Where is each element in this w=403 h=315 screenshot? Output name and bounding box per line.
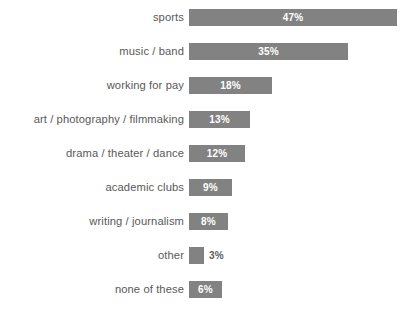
bar-track: 3% [189, 247, 224, 264]
bar-track: 18% [189, 77, 272, 94]
bar-category-label: none of these [0, 280, 184, 298]
bar-fill: 47% [189, 9, 397, 26]
bar-category-label: other [0, 246, 184, 264]
bar-row: other3% [0, 246, 403, 264]
bar-category-label: art / photography / filmmaking [0, 110, 184, 128]
bar-category-label: working for pay [0, 76, 184, 94]
bar-category-label: writing / journalism [0, 212, 184, 230]
bar-fill: 35% [189, 43, 348, 60]
bar-row: art / photography / filmmaking13% [0, 110, 403, 128]
bar-row: music / band35% [0, 42, 403, 60]
bar-track: 9% [189, 179, 232, 196]
bar-fill: 6% [189, 281, 222, 298]
bar-value-label: 47% [283, 9, 304, 26]
bar-track: 6% [189, 281, 222, 298]
bar-fill: 18% [189, 77, 272, 94]
bar-track: 35% [189, 43, 348, 60]
bar-row: working for pay18% [0, 76, 403, 94]
bar-row: sports47% [0, 8, 403, 26]
bar-row: academic clubs9% [0, 178, 403, 196]
bar-value-label: 3% [209, 247, 224, 264]
bar-value-label: 18% [220, 77, 241, 94]
bar-track: 13% [189, 111, 250, 128]
bar-value-label: 35% [258, 43, 279, 60]
bar-row: none of these6% [0, 280, 403, 298]
bar-fill: 12% [189, 145, 245, 162]
bar-category-label: sports [0, 8, 184, 26]
bar-category-label: academic clubs [0, 178, 184, 196]
bar-value-label: 12% [207, 145, 228, 162]
bar-value-label: 13% [209, 111, 230, 128]
bar-category-label: music / band [0, 42, 184, 60]
bar-fill: 8% [189, 213, 228, 230]
bar-value-label: 8% [201, 213, 216, 230]
bar-category-label: drama / theater / dance [0, 144, 184, 162]
bar-fill [189, 247, 204, 264]
bar-value-label: 6% [198, 281, 213, 298]
bar-fill: 13% [189, 111, 250, 128]
bar-value-label: 9% [203, 179, 218, 196]
bar-fill: 9% [189, 179, 232, 196]
horizontal-bar-chart: sports47%music / band35%working for pay1… [0, 0, 403, 315]
bar-track: 47% [189, 9, 397, 26]
bar-row: writing / journalism8% [0, 212, 403, 230]
bar-track: 12% [189, 145, 245, 162]
bar-row: drama / theater / dance12% [0, 144, 403, 162]
bar-track: 8% [189, 213, 228, 230]
